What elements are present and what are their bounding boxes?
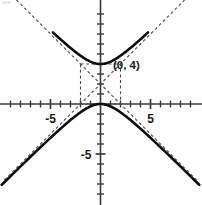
plot-canvas: -55-5 (0, 4) [0, 0, 202, 205]
hyperbola-graph-figure: -55-5 (0, 4) [0, 0, 202, 205]
x-tick-label: -5 [45, 112, 56, 126]
vertex-annotation-label: (0, 4) [113, 59, 140, 71]
y-tick-label: -5 [81, 148, 92, 162]
x-tick-label: 5 [147, 112, 154, 126]
